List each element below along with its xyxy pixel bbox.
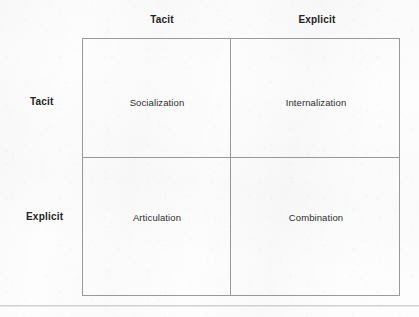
- scanned-page: Tacit Explicit Tacit Explicit Socializat…: [0, 0, 419, 317]
- column-header-tacit: Tacit: [132, 14, 192, 25]
- knowledge-conversion-matrix: Socialization Internalization Articulati…: [82, 38, 400, 296]
- matrix-cell-internalization: Internalization: [246, 97, 386, 108]
- matrix-horizontal-divider: [83, 157, 399, 158]
- matrix-cell-combination: Combination: [246, 212, 386, 223]
- page-bottom-rule: [0, 305, 419, 307]
- matrix-cell-socialization: Socialization: [97, 97, 217, 108]
- row-header-explicit: Explicit: [26, 211, 63, 222]
- row-header-tacit: Tacit: [30, 96, 54, 107]
- column-header-explicit: Explicit: [287, 14, 347, 25]
- matrix-vertical-divider: [230, 39, 231, 295]
- matrix-cell-articulation: Articulation: [97, 212, 217, 223]
